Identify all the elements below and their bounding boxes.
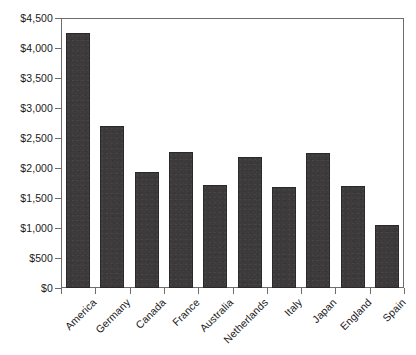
x-axis-tick-label: France [170, 296, 202, 328]
x-axis-tick-label: Japan [310, 296, 339, 325]
x-axis-tick-label: England [337, 296, 373, 332]
x-axis-tick-label: Canada [133, 296, 168, 331]
x-axis-labels: AmericaGermanyCanadaFranceAustraliaNethe… [0, 0, 416, 355]
bar-chart: $0$500$1,000$1,500$2,000$2,500$3,000$3,5… [0, 0, 416, 355]
x-axis-tick-label: Germany [93, 296, 133, 336]
x-axis-tick-label: Italy [282, 296, 304, 318]
x-axis-tick-label: Spain [380, 296, 408, 324]
